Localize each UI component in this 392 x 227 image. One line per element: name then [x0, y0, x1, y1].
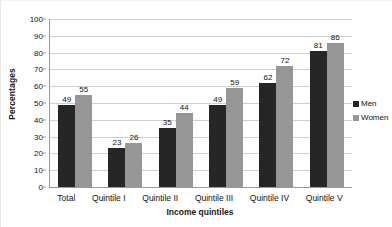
bar-women[interactable]: 26: [125, 19, 142, 187]
y-axis-tick-mark: [43, 69, 46, 70]
x-axis-tick-label: Quintile V: [306, 191, 343, 205]
bar-group: 4955: [58, 19, 92, 187]
y-axis-tick-mark: [43, 187, 46, 188]
bar-value-label: 86: [331, 33, 340, 42]
y-axis-tick-label: 50: [34, 99, 43, 108]
bar-men[interactable]: 49: [209, 19, 226, 187]
x-axis-tick-label: Quintile II: [142, 191, 178, 205]
bar-value-label: 49: [213, 95, 222, 104]
bar-rect: [159, 128, 176, 187]
bar-men[interactable]: 81: [310, 19, 327, 187]
y-axis-title-label: Percentages: [7, 68, 17, 120]
legend-label: Men: [361, 99, 377, 108]
bar-value-label: 44: [180, 103, 189, 112]
bar-men[interactable]: 35: [159, 19, 176, 187]
legend: MenWomen: [353, 99, 392, 127]
bar-value-label: 49: [62, 95, 71, 104]
bar-men[interactable]: 23: [108, 19, 125, 187]
y-axis-title: Percentages: [3, 1, 21, 187]
y-axis-tick-mark: [43, 153, 46, 154]
bar-value-label: 55: [79, 85, 88, 94]
y-axis-tick-mark: [43, 35, 46, 36]
bar-rect: [327, 43, 344, 187]
legend-label: Women: [361, 113, 388, 122]
bar-rect: [108, 148, 125, 187]
bar-value-label: 62: [264, 73, 273, 82]
bar-rect: [310, 51, 327, 187]
y-axis-tick-mark: [43, 103, 46, 104]
bar-value-label: 23: [113, 138, 122, 147]
legend-swatch-icon: [353, 101, 359, 107]
bar-group: 8186: [310, 19, 344, 187]
bar-value-label: 35: [163, 118, 172, 127]
bar-rect: [75, 95, 92, 187]
x-axis-tick-label: Total: [57, 191, 75, 205]
bar-group: 6272: [259, 19, 293, 187]
y-axis-tick-mark: [43, 119, 46, 120]
y-axis-tick-labels: 0102030405060708090100: [21, 19, 46, 187]
bar-value-label: 81: [314, 41, 323, 50]
bar-value-label: 72: [281, 56, 290, 65]
x-axis-tick-label: Quintile IV: [250, 191, 289, 205]
bar-chart: Percentages 0102030405060708090100 49552…: [0, 0, 392, 227]
y-axis-tick-label: 70: [34, 65, 43, 74]
x-axis-title: Income quintiles: [49, 207, 351, 217]
bar-group: 4959: [209, 19, 243, 187]
x-axis-tick-label: Quintile III: [195, 191, 233, 205]
bar-women[interactable]: 44: [176, 19, 193, 187]
legend-item-women[interactable]: Women: [353, 113, 392, 122]
x-axis-tick-label: Quintile I: [92, 191, 126, 205]
bar-women[interactable]: 86: [327, 19, 344, 187]
legend-item-men[interactable]: Men: [353, 99, 392, 108]
plot-area: 495523263544495962728186: [49, 19, 352, 188]
bar-rect: [276, 66, 293, 187]
bar-men[interactable]: 49: [58, 19, 75, 187]
y-axis-tick-mark: [43, 52, 46, 53]
bar-women[interactable]: 55: [75, 19, 92, 187]
y-axis-tick-label: 60: [34, 82, 43, 91]
bar-rect: [125, 143, 142, 187]
bar-group: 3544: [159, 19, 193, 187]
bar-women[interactable]: 72: [276, 19, 293, 187]
bar-rect: [226, 88, 243, 187]
bar-value-label: 59: [230, 78, 239, 87]
bar-groups: 495523263544495962728186: [50, 19, 352, 187]
y-axis-tick-mark: [43, 136, 46, 137]
y-axis-tick-mark: [43, 86, 46, 87]
bar-rect: [176, 113, 193, 187]
y-axis-tick-label: 30: [34, 132, 43, 141]
bar-group: 2326: [108, 19, 142, 187]
y-axis-tick-label: 80: [34, 48, 43, 57]
bar-rect: [58, 105, 75, 187]
legend-swatch-icon: [353, 115, 359, 121]
bar-rect: [259, 83, 276, 187]
bar-men[interactable]: 62: [259, 19, 276, 187]
y-axis-tick-label: 40: [34, 115, 43, 124]
y-axis-tick-label: 90: [34, 31, 43, 40]
bar-women[interactable]: 59: [226, 19, 243, 187]
bar-rect: [209, 105, 226, 187]
y-axis-tick-label: 100: [30, 15, 43, 24]
y-axis-tick-mark: [43, 170, 46, 171]
x-axis-tick-labels: TotalQuintile IQuintile IIQuintile IIIQu…: [49, 191, 351, 205]
y-axis-tick-label: 10: [34, 166, 43, 175]
y-axis-tick-mark: [43, 19, 46, 20]
y-axis-tick-label: 20: [34, 149, 43, 158]
bar-value-label: 26: [130, 133, 139, 142]
